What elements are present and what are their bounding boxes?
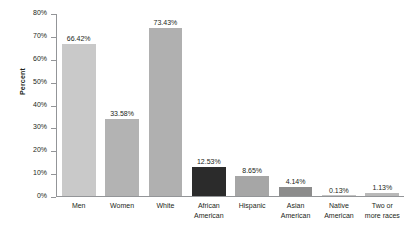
bar-value-label: 0.13% — [317, 187, 360, 194]
y-tick-label: 40% — [33, 101, 47, 108]
y-tick-label: 30% — [33, 123, 47, 130]
bar-value-label: 33.58% — [100, 110, 143, 117]
bar[interactable] — [62, 44, 96, 196]
x-axis-line — [56, 196, 404, 197]
x-axis-category-label: Men — [57, 201, 100, 220]
plot-area: 80%70%60%50%40%30%20%10%0% 66.42%33.58%7… — [56, 14, 404, 197]
category-label-line: African — [187, 201, 230, 211]
y-tick-label: 80% — [33, 9, 47, 16]
x-axis-category-label: Hispanic — [231, 201, 274, 220]
y-tick-mark — [51, 128, 56, 129]
y-tick-label: 60% — [33, 55, 47, 62]
category-label-line: Men — [57, 201, 100, 211]
y-tick-mark — [51, 83, 56, 84]
category-label-line: Women — [100, 201, 143, 211]
x-axis-category-label: Women — [100, 201, 143, 220]
bar[interactable] — [105, 119, 139, 196]
bar[interactable] — [279, 187, 313, 196]
bar-value-label: 8.65% — [231, 167, 274, 174]
y-tick-label: 20% — [33, 146, 47, 153]
bar-slot[interactable]: 1.13% — [361, 14, 404, 196]
bar-value-label: 73.43% — [144, 19, 187, 26]
bar[interactable] — [365, 193, 399, 196]
y-axis-title: Percent — [19, 52, 26, 112]
x-axis-category-labels: MenWomenWhiteAfricanAmericanHispanicAsia… — [57, 201, 404, 220]
y-tick-mark — [51, 14, 56, 15]
y-tick-mark — [51, 151, 56, 152]
y-tick-mark — [51, 37, 56, 38]
category-label-line: Hispanic — [231, 201, 274, 211]
category-label-line: Asian — [274, 201, 317, 211]
bar-value-label: 66.42% — [57, 35, 100, 42]
y-tick-mark — [51, 106, 56, 107]
bar-slot[interactable]: 4.14% — [274, 14, 317, 196]
y-tick-mark — [51, 60, 56, 61]
y-tick-label: 0% — [37, 192, 47, 199]
y-tick-mark — [51, 197, 56, 198]
bar-value-label: 4.14% — [274, 178, 317, 185]
y-tick-label: 50% — [33, 78, 47, 85]
y-tick-label: 10% — [33, 169, 47, 176]
bar[interactable] — [235, 176, 269, 196]
bar-chart: Percent 80%70%60%50%40%30%20%10%0% 66.42… — [0, 0, 413, 234]
category-label-line: White — [144, 201, 187, 211]
category-label-line: American — [274, 211, 317, 221]
x-axis-category-label: Two ormore races — [361, 201, 404, 220]
category-label-line: Two or — [361, 201, 404, 211]
bar[interactable] — [149, 28, 183, 196]
x-axis-category-label: AsianAmerican — [274, 201, 317, 220]
category-label-line: more races — [361, 211, 404, 221]
bar-slot[interactable]: 12.53% — [187, 14, 230, 196]
bar-slot[interactable]: 0.13% — [317, 14, 360, 196]
x-axis-category-label: AfricanAmerican — [187, 201, 230, 220]
bar-slot[interactable]: 66.42% — [57, 14, 100, 196]
bar-series: 66.42%33.58%73.43%12.53%8.65%4.14%0.13%1… — [57, 14, 404, 196]
bar-slot[interactable]: 8.65% — [231, 14, 274, 196]
y-tick-mark — [51, 174, 56, 175]
category-label-line: Native — [317, 201, 360, 211]
category-label-line: American — [187, 211, 230, 221]
category-label-line: American — [317, 211, 360, 221]
bar-slot[interactable]: 33.58% — [100, 14, 143, 196]
bar[interactable] — [192, 167, 226, 196]
x-axis-category-label: NativeAmerican — [317, 201, 360, 220]
bar[interactable] — [322, 195, 356, 196]
bar-value-label: 12.53% — [187, 158, 230, 165]
bar-slot[interactable]: 73.43% — [144, 14, 187, 196]
x-axis-category-label: White — [144, 201, 187, 220]
y-tick-label: 70% — [33, 32, 47, 39]
bar-value-label: 1.13% — [361, 184, 404, 191]
